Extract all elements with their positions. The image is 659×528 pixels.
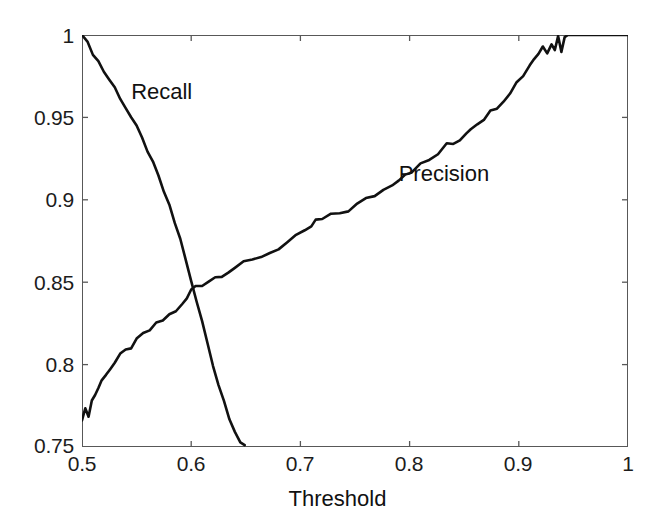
y-tick-label-0.9: 0.9 — [45, 188, 74, 212]
y-tick-label-0.8: 0.8 — [45, 353, 74, 377]
x-tick-label-1: 1 — [598, 452, 658, 476]
figure-canvas: 1 0.95 0.9 0.85 0.8 0.75 0.5 0.6 0.7 0.8… — [0, 0, 659, 528]
series-annotation-precision: Precision — [399, 161, 489, 187]
y-tick-label-0.95: 0.95 — [34, 106, 74, 130]
x-tick-label-0.5: 0.5 — [52, 452, 112, 476]
x-axis-title-text: Threshold — [289, 486, 387, 511]
series-annotation-recall: Recall — [131, 79, 192, 105]
x-tick-label-0.6: 0.6 — [161, 452, 221, 476]
x-axis-title: Threshold — [0, 486, 659, 512]
x-tick-label-0.8: 0.8 — [379, 452, 439, 476]
x-tick-label-0.9: 0.9 — [488, 452, 548, 476]
y-tick-label-1: 1 — [63, 24, 74, 48]
y-axis-tick-labels: 1 0.95 0.9 0.85 0.8 0.75 — [0, 0, 74, 528]
x-tick-label-0.7: 0.7 — [270, 452, 330, 476]
y-tick-label-0.85: 0.85 — [34, 271, 74, 295]
